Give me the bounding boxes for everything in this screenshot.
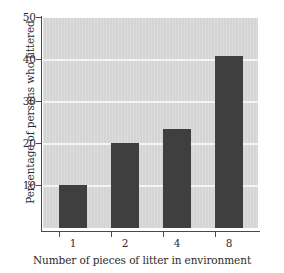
y-axis-tick-labels: 50 40 30 20 10 [10, 0, 36, 273]
bar-chart-figure: Percentage of persons who littered 50 40… [0, 0, 284, 273]
x-tick-mark-3 [163, 232, 164, 237]
x-tick-label-2: 2 [110, 238, 140, 249]
bar-category-4 [163, 129, 191, 228]
plot-area [43, 18, 258, 228]
x-tick-mark-1 [59, 232, 60, 237]
y-tick-label-40: 40 [14, 54, 36, 65]
bar-category-2 [111, 143, 139, 228]
x-tick-mark-2 [111, 232, 112, 237]
y-tick-label-20: 20 [14, 138, 36, 149]
y-tick-label-10: 10 [14, 180, 36, 191]
bar-category-8 [215, 56, 243, 228]
x-tick-label-1: 1 [58, 238, 88, 249]
x-axis-title: Number of pieces of litter in environmen… [0, 254, 284, 266]
x-axis-line [41, 231, 260, 232]
x-tick-label-8: 8 [214, 238, 244, 249]
bar-category-1 [59, 185, 87, 228]
x-tick-label-4: 4 [162, 238, 192, 249]
y-tick-label-50: 50 [14, 12, 36, 23]
y-tick-label-30: 30 [14, 96, 36, 107]
x-tick-mark-4 [215, 232, 216, 237]
